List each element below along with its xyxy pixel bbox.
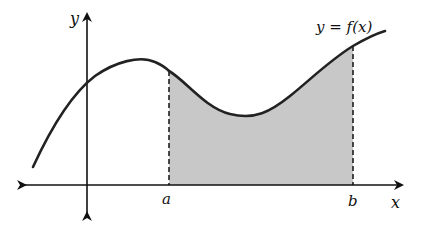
y-axis-label: y [69, 9, 80, 28]
bound-b-label: b [348, 192, 358, 210]
x-axis-label: x [391, 193, 400, 212]
bound-a-label: a [162, 190, 171, 208]
area-under-curve-diagram: y x a b y = f(x) [0, 0, 425, 226]
curve-label: y = f(x) [315, 18, 372, 36]
